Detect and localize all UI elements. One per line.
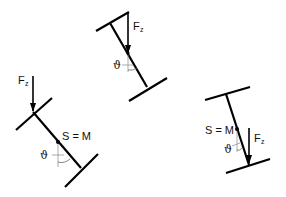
angle-label: ϑ — [113, 59, 121, 72]
angle-label: ϑ — [224, 143, 232, 156]
force-label: F — [133, 20, 140, 32]
angle-label: ϑ — [40, 149, 48, 162]
center-point — [235, 127, 239, 131]
diagram-left: F z S = M ϑ — [16, 74, 98, 187]
diagram-top: F z ϑ — [96, 12, 167, 101]
point-label: S = M — [205, 124, 234, 136]
force-label: F — [254, 132, 261, 144]
center-point — [126, 51, 129, 54]
force-subscript: z — [261, 138, 265, 145]
force-arrowhead-icon — [30, 103, 36, 112]
diagram-right: S = M F z ϑ — [205, 87, 270, 173]
angle-arc — [58, 159, 70, 163]
force-subscript: z — [140, 26, 144, 33]
lower-plate — [129, 78, 167, 101]
angle-arc — [237, 148, 242, 150]
force-label: F — [18, 74, 25, 86]
angle-tick — [232, 143, 240, 146]
force-subscript: z — [25, 80, 29, 87]
diagram-canvas: F z ϑ F z S = M ϑ S = M F z ϑ — [0, 0, 286, 197]
point-label: S = M — [62, 130, 91, 142]
center-point — [56, 140, 60, 144]
